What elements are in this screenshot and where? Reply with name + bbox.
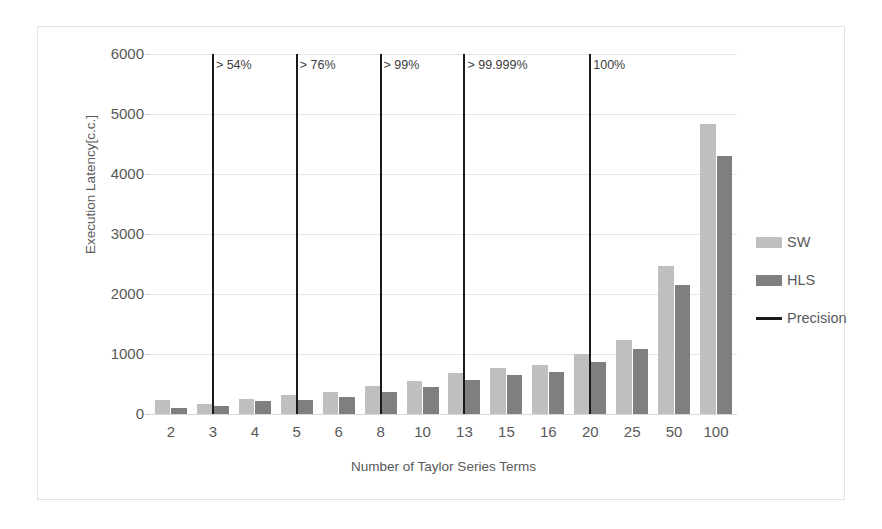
y-axis-tick-label: 1000 — [88, 346, 144, 361]
bar-sw-2[interactable] — [155, 400, 171, 414]
x-axis-tick-label: 13 — [444, 423, 484, 440]
bar-sw-25[interactable] — [616, 340, 632, 414]
bar-sw-5[interactable] — [281, 395, 297, 414]
bar-hls-2[interactable] — [171, 408, 187, 414]
bar-group — [150, 54, 192, 414]
y-axis-tick-label: 3000 — [88, 226, 144, 241]
legend-item-precision[interactable]: Precision — [756, 299, 866, 337]
x-axis-title: Number of Taylor Series Terms — [150, 459, 737, 474]
precision-line-20 — [589, 54, 591, 414]
bar-group — [402, 54, 444, 414]
legend-label: HLS — [787, 272, 815, 288]
bar-sw-10[interactable] — [407, 381, 423, 414]
precision-line-13 — [463, 54, 465, 414]
x-axis-tick-label: 3 — [193, 423, 233, 440]
bar-hls-16[interactable] — [549, 372, 565, 414]
bar-hls-6[interactable] — [339, 397, 355, 414]
y-axis-tick-label: 4000 — [88, 166, 144, 181]
y-axis-tick-label: 5000 — [88, 106, 144, 121]
bar-sw-100[interactable] — [700, 124, 716, 414]
bar-group — [318, 54, 360, 414]
precision-line-3 — [212, 54, 214, 414]
x-axis-tick-label: 100 — [696, 423, 736, 440]
bar-group — [485, 54, 527, 414]
bar-sw-4[interactable] — [239, 399, 255, 414]
bar-hls-13[interactable] — [465, 380, 481, 414]
precision-line-8 — [380, 54, 382, 414]
legend-label: SW — [787, 234, 810, 250]
bar-hls-15[interactable] — [507, 375, 523, 414]
precision-label-20: 100% — [593, 59, 625, 72]
chart-container: Execution Latency[c.c.] 0100020003000400… — [37, 26, 845, 500]
bar-group — [695, 54, 737, 414]
bar-hls-20[interactable] — [591, 362, 607, 414]
bar-sw-20[interactable] — [574, 354, 590, 414]
precision-label-13: > 99.999% — [467, 59, 527, 72]
legend-swatch-hls-icon — [756, 275, 782, 286]
x-axis-tick-label: 2 — [151, 423, 191, 440]
x-axis-tick-label: 5 — [277, 423, 317, 440]
x-axis-tick-label: 4 — [235, 423, 275, 440]
bar-sw-16[interactable] — [532, 365, 548, 414]
bar-hls-10[interactable] — [423, 387, 439, 414]
legend-swatch-sw-icon — [756, 237, 782, 248]
bar-hls-3[interactable] — [213, 406, 229, 414]
chart-legend: SWHLSPrecision — [756, 223, 866, 337]
bar-sw-3[interactable] — [197, 404, 213, 414]
x-axis-tick-label: 6 — [319, 423, 359, 440]
x-axis-tick-label: 16 — [528, 423, 568, 440]
bar-group — [234, 54, 276, 414]
bar-sw-13[interactable] — [448, 373, 464, 414]
y-axis-tick-label: 2000 — [88, 286, 144, 301]
x-axis-tick-label: 20 — [570, 423, 610, 440]
bar-hls-8[interactable] — [381, 392, 397, 414]
bar-sw-15[interactable] — [490, 368, 506, 414]
y-axis-tickmark — [145, 414, 150, 415]
plot-area: > 54%> 76%> 99%> 99.999%100% — [150, 54, 737, 414]
y-axis-tick-label: 0 — [88, 406, 144, 421]
precision-label-5: > 76% — [300, 59, 336, 72]
precision-line-5 — [296, 54, 298, 414]
bar-hls-100[interactable] — [717, 156, 733, 414]
y-axis-tick-label: 6000 — [88, 46, 144, 61]
x-axis-tick-label: 50 — [654, 423, 694, 440]
bar-hls-50[interactable] — [675, 285, 691, 414]
bar-group — [611, 54, 653, 414]
legend-label: Precision — [787, 310, 847, 326]
bar-sw-6[interactable] — [323, 392, 339, 414]
bar-hls-25[interactable] — [633, 349, 649, 414]
bar-hls-4[interactable] — [255, 401, 271, 414]
bar-group — [527, 54, 569, 414]
bar-group — [653, 54, 695, 414]
legend-swatch-precision-icon — [756, 317, 782, 320]
y-axis-title: Execution Latency[c.c.] — [83, 95, 98, 275]
precision-label-3: > 54% — [216, 59, 252, 72]
bar-hls-5[interactable] — [297, 400, 313, 414]
x-axis-tick-label: 15 — [486, 423, 526, 440]
x-axis-tick-label: 10 — [403, 423, 443, 440]
bar-sw-50[interactable] — [658, 266, 674, 414]
legend-item-hls[interactable]: HLS — [756, 261, 866, 299]
bar-sw-8[interactable] — [365, 386, 381, 414]
axis-baseline — [150, 414, 737, 415]
x-axis-tick-label: 8 — [361, 423, 401, 440]
x-axis-tick-label: 25 — [612, 423, 652, 440]
precision-label-8: > 99% — [384, 59, 420, 72]
legend-item-sw[interactable]: SW — [756, 223, 866, 261]
